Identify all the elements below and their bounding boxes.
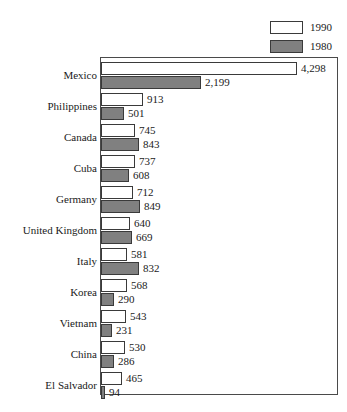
bar-group-china-1990: 530 (101, 341, 146, 354)
bar-group-philippines-1990: 913 (101, 93, 164, 106)
bar-germany-1980 (101, 200, 140, 213)
bar-value-canada-1980: 843 (143, 138, 160, 151)
bar-value-el-salvador-1990: 465 (126, 372, 143, 385)
bar-value-canada-1990: 745 (139, 124, 156, 137)
bar-group-el-salvador-1980: 94 (101, 386, 120, 399)
bar-group-united-kingdom-1980: 669 (101, 231, 153, 244)
bar-group-italy-1980: 832 (101, 262, 160, 275)
bar-group-canada-1980: 843 (101, 138, 160, 151)
bar-united-kingdom-1980 (101, 231, 132, 244)
category-label-cuba: Cuba (0, 161, 97, 175)
bar-row-canada: Canada745843 (0, 122, 347, 153)
bar-cuba-1980 (101, 169, 129, 182)
bar-group-korea-1990: 568 (101, 279, 148, 292)
bar-row-vietnam: Vietnam543231 (0, 308, 347, 339)
bar-group-vietnam-1980: 231 (101, 324, 133, 337)
bar-el-salvador-1990 (101, 372, 122, 385)
bar-el-salvador-1980 (101, 386, 105, 399)
legend-entry-1980: 1980 (270, 38, 346, 54)
bar-value-el-salvador-1980: 94 (109, 386, 120, 399)
bar-canada-1990 (101, 124, 135, 137)
bar-value-united-kingdom-1990: 640 (134, 217, 151, 230)
bar-italy-1980 (101, 262, 139, 275)
bar-value-cuba-1980: 608 (133, 169, 150, 182)
bar-germany-1990 (101, 186, 133, 199)
bar-group-china-1980: 286 (101, 355, 135, 368)
bar-italy-1990 (101, 248, 127, 261)
bar-value-mexico-1980: 2,199 (205, 76, 230, 89)
bar-row-mexico: Mexico4,2982,199 (0, 60, 347, 91)
bar-group-italy-1990: 581 (101, 248, 148, 261)
category-label-united-kingdom: United Kingdom (0, 223, 97, 237)
bar-mexico-1980 (101, 76, 201, 89)
legend-entry-1990: 1990 (270, 19, 346, 35)
category-label-vietnam: Vietnam (0, 316, 97, 330)
bar-group-korea-1980: 290 (101, 293, 135, 306)
bar-value-italy-1980: 832 (143, 262, 160, 275)
category-label-el-salvador: El Salvador (0, 378, 97, 392)
bar-value-mexico-1990: 4,298 (301, 62, 326, 75)
bar-group-germany-1990: 712 (101, 186, 154, 199)
category-label-philippines: Philippines (0, 99, 97, 113)
bar-row-philippines: Philippines913501 (0, 91, 347, 122)
bar-value-germany-1990: 712 (137, 186, 154, 199)
category-label-germany: Germany (0, 192, 97, 206)
category-label-italy: Italy (0, 254, 97, 268)
bar-group-germany-1980: 849 (101, 200, 161, 213)
bar-value-cuba-1990: 737 (139, 155, 156, 168)
bar-korea-1990 (101, 279, 127, 292)
bar-china-1980 (101, 355, 114, 368)
bar-row-china: China530286 (0, 339, 347, 370)
bar-cuba-1990 (101, 155, 135, 168)
bar-row-united-kingdom: United Kingdom640669 (0, 215, 347, 246)
bar-united-kingdom-1990 (101, 217, 130, 230)
bar-vietnam-1980 (101, 324, 112, 337)
bar-group-vietnam-1990: 543 (101, 310, 147, 323)
bar-group-united-kingdom-1990: 640 (101, 217, 151, 230)
bar-group-el-salvador-1990: 465 (101, 372, 143, 385)
bar-group-cuba-1980: 608 (101, 169, 150, 182)
legend-label-1980: 1980 (310, 40, 332, 53)
bar-philippines-1990 (101, 93, 143, 106)
bar-row-germany: Germany712849 (0, 184, 347, 215)
bar-group-cuba-1990: 737 (101, 155, 156, 168)
legend-swatch-1980 (270, 40, 303, 53)
category-label-korea: Korea (0, 285, 97, 299)
bar-value-vietnam-1990: 543 (130, 310, 147, 323)
bar-row-korea: Korea568290 (0, 277, 347, 308)
bar-value-vietnam-1980: 231 (116, 324, 133, 337)
bar-canada-1980 (101, 138, 139, 151)
bar-value-korea-1990: 568 (131, 279, 148, 292)
bar-value-philippines-1990: 913 (147, 93, 164, 106)
bar-china-1990 (101, 341, 125, 354)
bar-row-el-salvador: El Salvador46594 (0, 370, 347, 401)
bar-row-cuba: Cuba737608 (0, 153, 347, 184)
category-label-china: China (0, 347, 97, 361)
bar-korea-1980 (101, 293, 114, 306)
bar-group-canada-1990: 745 (101, 124, 156, 137)
bar-value-china-1990: 530 (129, 341, 146, 354)
chart-legend: 1990 1980 (270, 19, 346, 57)
category-label-mexico: Mexico (0, 68, 97, 82)
bar-value-germany-1980: 849 (144, 200, 161, 213)
bar-row-italy: Italy581832 (0, 246, 347, 277)
bar-group-mexico-1980: 2,199 (101, 76, 230, 89)
bar-value-philippines-1980: 501 (128, 107, 145, 120)
bar-vietnam-1990 (101, 310, 126, 323)
legend-swatch-1990 (270, 21, 303, 34)
bar-value-china-1980: 286 (118, 355, 135, 368)
bar-group-mexico-1990: 4,298 (101, 62, 326, 75)
bar-value-korea-1980: 290 (118, 293, 135, 306)
bar-philippines-1980 (101, 107, 124, 120)
category-label-canada: Canada (0, 130, 97, 144)
bar-mexico-1990 (101, 62, 297, 75)
bar-group-philippines-1980: 501 (101, 107, 145, 120)
bar-value-italy-1990: 581 (131, 248, 148, 261)
legend-label-1990: 1990 (310, 21, 332, 34)
bar-rows-container: Mexico4,2982,199Philippines913501Canada7… (0, 57, 347, 395)
bar-value-united-kingdom-1980: 669 (136, 231, 153, 244)
